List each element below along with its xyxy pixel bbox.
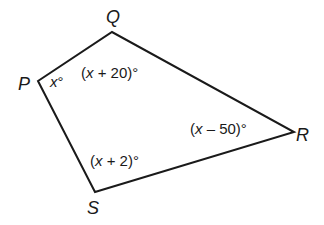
vertex-label-p: P	[18, 74, 30, 94]
angle-label-r: (x – 50)°	[190, 120, 247, 137]
diagram-svg: Q P R S x° (x + 20)° (x – 50)° (x + 2)°	[0, 0, 324, 225]
angle-p-degree: °	[58, 73, 64, 90]
angle-r-rest: – 50)°	[203, 120, 247, 137]
angle-q-rest: + 20)°	[94, 64, 139, 81]
vertex-label-s: S	[87, 198, 99, 218]
angle-label-q: (x + 20)°	[81, 64, 138, 81]
angle-label-p: x°	[49, 73, 64, 90]
vertex-label-q: Q	[106, 7, 120, 27]
quadrilateral-diagram: Q P R S x° (x + 20)° (x – 50)° (x + 2)°	[0, 0, 324, 225]
angle-s-rest: + 2)°	[103, 152, 139, 169]
quadrilateral-pqrs	[38, 32, 294, 192]
vertex-label-r: R	[296, 125, 309, 145]
angle-label-s: (x + 2)°	[90, 152, 139, 169]
